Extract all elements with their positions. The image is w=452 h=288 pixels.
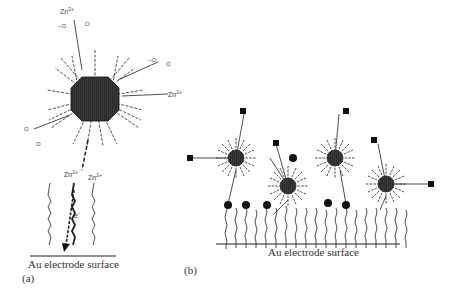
nanoparticle-b-2	[280, 178, 296, 194]
panel-b-surface-label: Au electrode surface	[268, 246, 359, 258]
svg-text:O: O	[85, 21, 90, 27]
figure-canvas: Zn2+ −O O −O O Zn2+ O O Zn2+ Zn2+ e−	[0, 0, 452, 288]
sam-chains-b	[225, 205, 407, 249]
svg-text:−O: −O	[58, 23, 67, 29]
panel-b-label: (b)	[184, 264, 197, 276]
panel-a-label: (a)	[22, 272, 34, 284]
electron-label: e−	[74, 210, 81, 219]
svg-text:Zn2+: Zn2+	[64, 169, 78, 178]
nanoparticle-b-4	[378, 176, 394, 192]
svg-text:O: O	[24, 126, 29, 132]
panel-a	[30, 20, 168, 256]
panel-a-surface-label: Au electrode surface	[28, 258, 119, 270]
nanoparticle-b-3	[327, 150, 343, 166]
svg-text:O: O	[36, 141, 41, 147]
square-terminal-groups	[187, 108, 434, 187]
nanoparticle-b-1	[228, 150, 244, 166]
svg-text:Zn2+: Zn2+	[88, 172, 102, 181]
svg-text:Zn2+: Zn2+	[168, 89, 182, 98]
svg-text:−O: −O	[148, 57, 157, 63]
nanoparticle-a	[71, 77, 119, 121]
panel-b	[192, 114, 430, 249]
svg-text:Zn2+: Zn2+	[60, 6, 74, 15]
svg-text:O: O	[166, 61, 171, 67]
